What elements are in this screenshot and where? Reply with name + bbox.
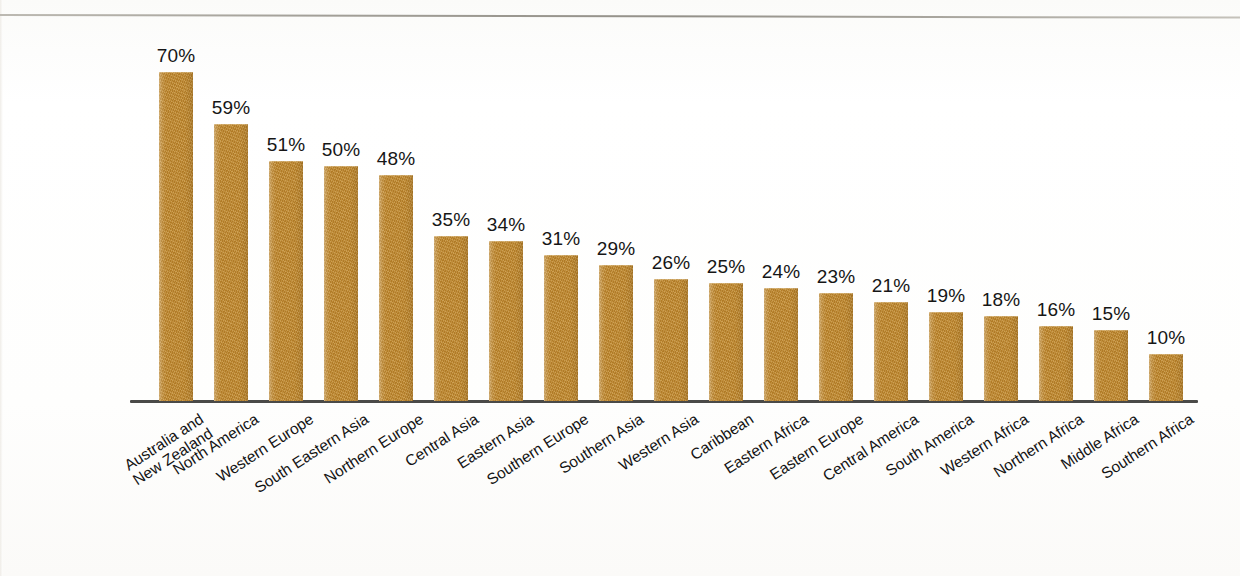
bar <box>764 288 798 401</box>
bar-value-label: 25% <box>698 256 754 278</box>
bar <box>874 302 908 401</box>
bar-value-label: 51% <box>258 134 314 156</box>
bar <box>709 283 743 401</box>
bar-value-label: 24% <box>753 261 809 283</box>
bar-value-label: 21% <box>863 275 919 297</box>
bar <box>324 166 358 401</box>
bar <box>984 316 1018 401</box>
scanned-page: 70%59%51%50%48%35%34%31%29%26%25%24%23%2… <box>0 0 1240 576</box>
bar-value-label: 23% <box>808 266 864 288</box>
bar-value-label: 19% <box>918 285 974 307</box>
bar-value-label: 34% <box>478 214 534 236</box>
bar-value-label: 50% <box>313 139 369 161</box>
bar-value-label: 31% <box>533 228 589 250</box>
bar <box>1039 326 1073 401</box>
bar-value-label: 18% <box>973 289 1029 311</box>
bar <box>379 175 413 401</box>
bar <box>434 236 468 401</box>
bar <box>599 265 633 401</box>
bar-value-label: 10% <box>1138 327 1194 349</box>
bar-value-label: 29% <box>588 238 644 260</box>
bar-value-label: 15% <box>1083 303 1139 325</box>
bar-value-label: 59% <box>203 97 259 119</box>
bar-value-label: 35% <box>423 209 479 231</box>
bar <box>159 72 193 401</box>
bar-value-label: 16% <box>1028 299 1084 321</box>
bar-value-label: 26% <box>643 252 699 274</box>
bar <box>819 293 853 401</box>
bar <box>544 255 578 401</box>
bar-value-label: 48% <box>368 148 424 170</box>
bar-value-label: 70% <box>148 45 204 67</box>
bar <box>489 241 523 401</box>
bar <box>269 161 303 401</box>
bar <box>214 124 248 401</box>
bar <box>929 312 963 401</box>
bar-chart: 70%59%51%50%48%35%34%31%29%26%25%24%23%2… <box>0 0 1240 576</box>
bar <box>1149 354 1183 401</box>
bar <box>654 279 688 401</box>
bar <box>1094 330 1128 401</box>
